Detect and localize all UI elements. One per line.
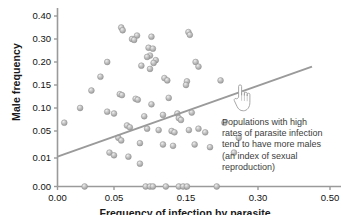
data-point bbox=[166, 95, 172, 101]
data-point bbox=[196, 126, 202, 132]
data-point bbox=[150, 184, 156, 190]
scatter-chart: Male frequency Frequency of infection by… bbox=[0, 0, 343, 215]
data-point bbox=[111, 111, 117, 117]
data-point bbox=[156, 127, 162, 133]
pointing-hand-cursor bbox=[231, 83, 253, 113]
data-point bbox=[147, 66, 153, 72]
x-tick-label: 0.50 bbox=[308, 192, 343, 203]
data-point bbox=[138, 63, 144, 69]
data-point bbox=[214, 184, 220, 190]
y-tick-label: 0.01 bbox=[17, 152, 51, 163]
data-point bbox=[131, 37, 137, 43]
data-point bbox=[160, 142, 166, 148]
data-point bbox=[151, 60, 157, 66]
data-point bbox=[144, 54, 150, 60]
data-point bbox=[118, 138, 124, 144]
data-point bbox=[141, 113, 147, 119]
y-tick-label: 0.20 bbox=[17, 56, 51, 67]
y-tick-label: 0.05 bbox=[17, 125, 51, 136]
data-point bbox=[82, 184, 88, 190]
annotation-text: Populations with high rates of parasite … bbox=[222, 117, 343, 173]
data-point bbox=[111, 152, 117, 158]
y-tick-label: 0.15 bbox=[17, 79, 51, 90]
data-point bbox=[187, 32, 193, 38]
data-point bbox=[120, 27, 126, 33]
data-point bbox=[104, 59, 110, 65]
data-point bbox=[172, 129, 178, 135]
data-point bbox=[77, 105, 83, 111]
data-point bbox=[104, 109, 110, 115]
y-tick-label: 0.40 bbox=[17, 10, 51, 21]
y-tick-label: 0.00 bbox=[17, 181, 51, 192]
data-point bbox=[160, 112, 166, 118]
data-point bbox=[98, 74, 104, 80]
data-point bbox=[150, 46, 156, 52]
data-point bbox=[137, 161, 143, 167]
data-point bbox=[119, 92, 125, 98]
data-point bbox=[137, 140, 143, 146]
data-point bbox=[89, 88, 95, 94]
data-point bbox=[178, 117, 184, 123]
data-point bbox=[183, 82, 189, 88]
x-tick-label: 0.00 bbox=[36, 192, 80, 203]
data-point bbox=[218, 78, 224, 84]
x-tick-label: 0.30 bbox=[236, 192, 280, 203]
data-point bbox=[207, 144, 213, 150]
data-point bbox=[184, 184, 190, 190]
data-point bbox=[149, 101, 155, 107]
x-tick-label: 0.05 bbox=[92, 192, 136, 203]
data-point bbox=[61, 120, 67, 126]
data-point bbox=[186, 127, 192, 133]
data-point bbox=[164, 78, 170, 84]
data-point bbox=[125, 154, 131, 160]
data-points bbox=[61, 25, 241, 190]
data-point bbox=[192, 142, 198, 148]
data-point bbox=[149, 34, 155, 40]
data-point bbox=[202, 129, 208, 135]
data-point bbox=[170, 143, 176, 149]
y-tick-label: 0.30 bbox=[17, 33, 51, 44]
x-tick-label: 0.15 bbox=[164, 192, 208, 203]
data-point bbox=[163, 184, 169, 190]
data-point bbox=[135, 97, 141, 103]
y-tick-label: 0.10 bbox=[17, 102, 51, 113]
plot-area bbox=[0, 0, 343, 215]
data-point bbox=[196, 64, 202, 70]
